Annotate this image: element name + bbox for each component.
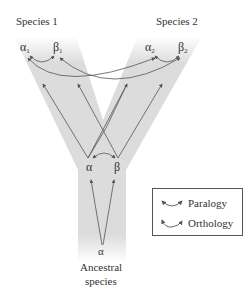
- gene-alpha1: α1: [20, 41, 30, 55]
- legend-label-paralogy: Paralogy: [188, 197, 227, 209]
- gene-subscript: 2: [184, 47, 188, 55]
- gene-subscript: 1: [59, 47, 63, 55]
- gene-beta1: β1: [53, 41, 63, 55]
- gene-alpha2: α2: [145, 41, 155, 55]
- ancestral-label-line2: species: [85, 276, 117, 287]
- orthology-arc-icon: [159, 216, 185, 230]
- gene-beta-duplicate: β: [114, 161, 120, 173]
- gene-tree-diagram: [0, 0, 252, 297]
- gene-subscript: 1: [26, 47, 30, 55]
- legend: Paralogy Orthology: [152, 188, 243, 236]
- gene-alpha-duplicate: α: [86, 161, 92, 173]
- legend-item-paralogy: Paralogy: [159, 195, 227, 211]
- gene-alpha-ancestral: α: [98, 246, 104, 257]
- species1-label: Species 1: [16, 16, 58, 27]
- ancestral-label-line1: Ancestral: [80, 262, 122, 273]
- legend-item-orthology: Orthology: [159, 215, 233, 231]
- legend-label-orthology: Orthology: [188, 217, 233, 229]
- gene-beta2: β2: [178, 41, 188, 55]
- species2-label: Species 2: [156, 16, 198, 27]
- gene-subscript: 2: [151, 47, 155, 55]
- paralogy-arc-icon: [159, 196, 185, 210]
